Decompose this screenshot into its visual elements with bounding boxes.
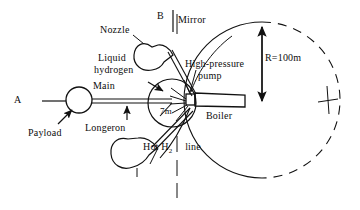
nozzle-leader-line: [133, 35, 144, 44]
label-hot-h2-suffix: line: [185, 141, 201, 152]
label-high-pressure-line2: pump: [198, 70, 222, 81]
label-rotation-radius: R=100m: [265, 52, 301, 63]
high-pressure-pump-box: [186, 94, 195, 105]
label-hot-h2-subscript: 2: [169, 147, 173, 155]
label-hot-h2-line: Hot H2 line: [143, 141, 201, 157]
payload-leader-arrow: [58, 110, 72, 124]
schematic-vector-canvas: [0, 0, 360, 210]
label-liquid-hydrogen-line2: hydrogen: [94, 64, 133, 75]
propulsion-schematic-figure: A B Mirror Nozzle Liquid hydrogen Main L…: [0, 0, 360, 210]
circle-right-tick-marker: [318, 86, 338, 114]
payload-sphere: [66, 87, 92, 113]
label-main: Main: [93, 80, 115, 91]
upper-nozzle-bell: [134, 44, 173, 71]
main-longeron-beam: [92, 99, 172, 103]
label-point-a: A: [14, 94, 21, 105]
label-hot-h2-prefix: Hot H: [143, 141, 169, 152]
label-mirror: Mirror: [178, 14, 206, 25]
label-tank-radius: 7m: [160, 106, 172, 117]
label-nozzle: Nozzle: [100, 24, 130, 35]
boiler-body: [195, 93, 245, 107]
label-boiler: Boiler: [206, 110, 232, 121]
label-high-pressure-line1: High-pressure: [185, 58, 244, 69]
label-liquid-hydrogen-line1: Liquid: [98, 52, 126, 63]
label-point-b: B: [157, 10, 164, 21]
label-longeron: Longeron: [85, 122, 125, 133]
label-payload: Payload: [28, 127, 62, 138]
liquid-hydrogen-leader-arrow: [148, 82, 163, 91]
